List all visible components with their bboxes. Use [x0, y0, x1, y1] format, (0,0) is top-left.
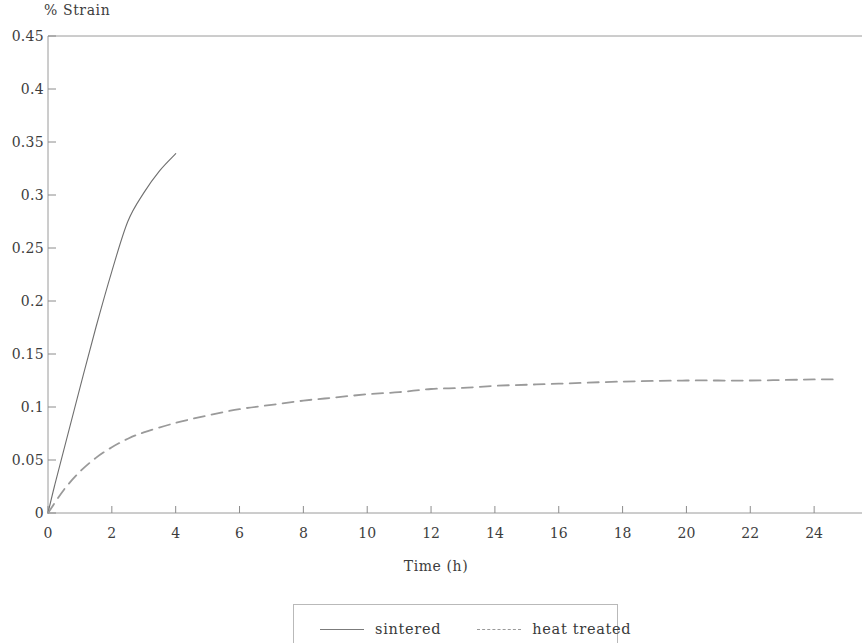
legend-item-label: heat treated	[532, 621, 631, 637]
y-tick-label: 0.1	[0, 400, 44, 414]
x-tick-label: 18	[603, 526, 643, 540]
x-axis-ticks	[48, 506, 814, 513]
x-tick-label: 20	[666, 526, 706, 540]
data-series-layer	[48, 154, 833, 513]
legend-entries: sinteredheat treated	[294, 621, 617, 637]
y-tick-label: 0.4	[0, 82, 44, 96]
x-tick-label: 16	[539, 526, 579, 540]
legend-item-sintered[interactable]: sintered	[320, 621, 441, 637]
y-axis-label: % Strain	[44, 2, 110, 18]
y-tick-label: 0.35	[0, 135, 44, 149]
chart-legend: sinteredheat treated	[293, 604, 618, 643]
x-axis-label: Time (h)	[0, 558, 862, 574]
y-tick-label-text: 0.05	[2, 453, 44, 467]
x-tick-label: 14	[475, 526, 515, 540]
axis-frame	[48, 36, 862, 513]
legend-item-heat-treated[interactable]: heat treated	[477, 621, 631, 637]
x-tick-label: 10	[347, 526, 387, 540]
x-tick-label: 12	[411, 526, 451, 540]
y-tick-label-text: 0.2	[2, 294, 44, 308]
x-tick-label: 4	[156, 526, 196, 540]
y-tick-label: 0.2	[0, 294, 44, 308]
y-tick-label: 0.3	[0, 188, 44, 202]
dashed-line-icon	[477, 629, 521, 630]
x-tick-label: 0	[28, 526, 68, 540]
y-tick-label: 0.15	[0, 347, 44, 361]
chart-figure: % Strain 00.050.10.150.20.250.30.350.40.…	[0, 0, 862, 643]
y-axis-ticks	[48, 36, 56, 513]
y-tick-label-text: 0.45	[2, 29, 44, 43]
x-tick-label: 8	[283, 526, 323, 540]
y-tick-label-text: 0	[2, 506, 44, 520]
y-tick-label-text: 0.35	[2, 135, 44, 149]
x-axis-label-text: Time (h)	[394, 558, 469, 574]
plot-area	[0, 0, 862, 643]
y-tick-label: 0.25	[0, 241, 44, 255]
legend-item-label: sintered	[375, 621, 441, 637]
y-tick-label: 0	[0, 506, 44, 520]
y-tick-label: 0.45	[0, 29, 44, 43]
series-line-heat-treated	[48, 379, 833, 513]
y-tick-label-text: 0.4	[2, 82, 44, 96]
x-tick-label: 24	[794, 526, 834, 540]
x-tick-label: 6	[220, 526, 260, 540]
y-tick-label-text: 0.1	[2, 400, 44, 414]
series-line-sintered	[48, 154, 176, 513]
y-tick-label-text: 0.3	[2, 188, 44, 202]
x-tick-label: 2	[92, 526, 132, 540]
solid-line-icon	[320, 629, 364, 630]
y-tick-label: 0.05	[0, 453, 44, 467]
y-tick-label-text: 0.15	[2, 347, 44, 361]
y-tick-label-text: 0.25	[2, 241, 44, 255]
x-tick-label: 22	[730, 526, 770, 540]
